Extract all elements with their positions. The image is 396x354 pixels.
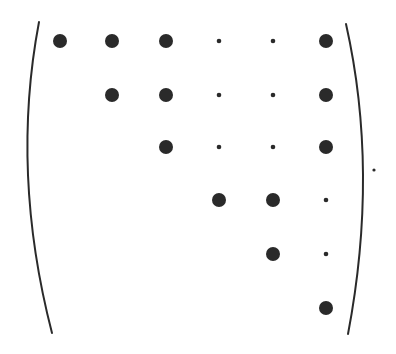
matrix-entry-large-r3c3 <box>159 140 173 154</box>
right-parenthesis-bracket <box>346 24 363 334</box>
matrix-diagram <box>0 0 396 354</box>
trailing-period-dot <box>372 168 375 171</box>
matrix-entry-large-r4c5 <box>266 193 280 207</box>
matrix-entry-large-r2c2 <box>105 88 119 102</box>
matrix-entry-large-r1c6 <box>319 34 333 48</box>
matrix-entry-small-r3c5 <box>271 145 276 150</box>
left-parenthesis-bracket <box>27 22 52 333</box>
matrix-entry-small-r1c4 <box>217 39 222 44</box>
matrix-entry-large-r4c4 <box>212 193 226 207</box>
matrix-entries <box>53 34 333 315</box>
matrix-entry-small-r1c5 <box>271 39 276 44</box>
matrix-entry-large-r5c5 <box>266 247 280 261</box>
matrix-entry-small-r5c6 <box>324 252 329 257</box>
matrix-entry-small-r3c4 <box>217 145 222 150</box>
matrix-entry-large-r3c6 <box>319 140 333 154</box>
matrix-entry-large-r2c6 <box>319 88 333 102</box>
matrix-entry-small-r2c4 <box>217 93 222 98</box>
matrix-entry-large-r1c2 <box>105 34 119 48</box>
matrix-entry-large-r1c3 <box>159 34 173 48</box>
matrix-entry-large-r1c1 <box>53 34 67 48</box>
matrix-entry-large-r2c3 <box>159 88 173 102</box>
matrix-figure <box>0 0 396 354</box>
matrix-entry-large-r6c6 <box>319 301 333 315</box>
matrix-entry-small-r4c6 <box>324 198 329 203</box>
matrix-entry-small-r2c5 <box>271 93 276 98</box>
